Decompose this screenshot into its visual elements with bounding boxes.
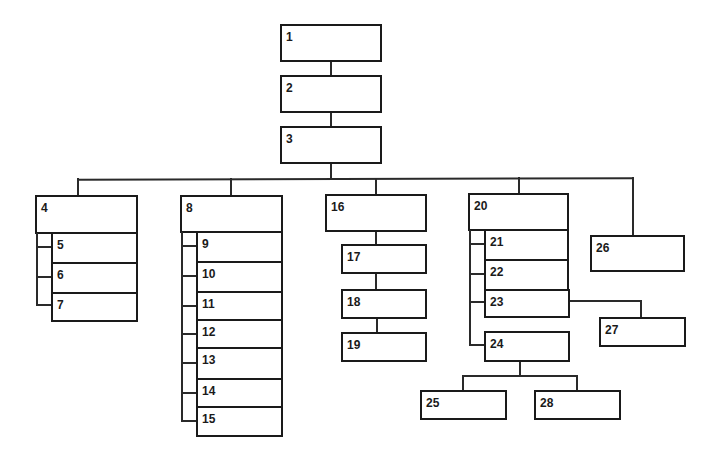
node-label: 10 xyxy=(202,267,215,281)
node-18: 18 xyxy=(341,289,427,319)
node-5: 5 xyxy=(51,232,138,264)
connector xyxy=(462,375,577,377)
connector xyxy=(375,178,377,194)
bracket-tick xyxy=(181,420,196,422)
node-23: 23 xyxy=(484,289,570,318)
node-label: 7 xyxy=(57,298,64,312)
connector xyxy=(576,375,578,390)
node-label: 24 xyxy=(490,337,503,351)
node-2: 2 xyxy=(280,75,382,113)
node-label: 15 xyxy=(202,412,215,426)
node-25: 25 xyxy=(420,390,507,420)
connector xyxy=(330,62,332,75)
node-label: 1 xyxy=(286,30,293,44)
node-label: 2 xyxy=(286,81,293,95)
connector xyxy=(77,178,79,195)
node-11: 11 xyxy=(196,291,283,321)
node-label: 3 xyxy=(286,132,293,146)
node-label: 27 xyxy=(605,323,618,337)
bracket-tick xyxy=(469,273,484,275)
node-label: 12 xyxy=(202,325,215,339)
connector xyxy=(462,375,464,390)
node-20: 20 xyxy=(468,193,569,231)
connector xyxy=(330,164,332,179)
node-17: 17 xyxy=(341,244,427,274)
node-label: 28 xyxy=(540,396,553,410)
bracket-tick xyxy=(36,304,51,306)
connector xyxy=(519,362,521,376)
node-22: 22 xyxy=(484,259,569,291)
node-6: 6 xyxy=(51,262,138,294)
node-12: 12 xyxy=(196,319,283,349)
node-label: 8 xyxy=(186,201,193,215)
bracket-tick xyxy=(181,305,196,307)
node-label: 26 xyxy=(596,241,609,255)
node-26: 26 xyxy=(590,235,685,272)
bracket-tick xyxy=(469,344,484,346)
connector-bus xyxy=(77,177,633,180)
node-label: 9 xyxy=(202,237,209,251)
node-label: 4 xyxy=(41,201,48,215)
bracket-tick xyxy=(181,245,196,247)
node-3: 3 xyxy=(280,126,382,164)
node-10: 10 xyxy=(196,261,283,293)
node-7: 7 xyxy=(51,292,138,322)
node-28: 28 xyxy=(534,390,621,420)
connector xyxy=(640,300,642,317)
bracket-tick xyxy=(181,275,196,277)
node-label: 14 xyxy=(202,384,215,398)
node-4: 4 xyxy=(35,195,138,234)
bracket-tick xyxy=(469,243,484,245)
node-16: 16 xyxy=(325,194,427,232)
node-label: 20 xyxy=(474,199,487,213)
connector xyxy=(570,300,641,302)
connector xyxy=(376,319,378,332)
node-label: 22 xyxy=(490,265,503,279)
node-label: 11 xyxy=(202,297,215,311)
bracket-tick xyxy=(181,362,196,364)
node-8: 8 xyxy=(180,195,283,233)
node-label: 16 xyxy=(331,200,344,214)
node-label: 17 xyxy=(347,250,360,264)
node-9: 9 xyxy=(196,231,283,263)
node-1: 1 xyxy=(280,24,382,62)
bracket-tick xyxy=(36,246,51,248)
node-14: 14 xyxy=(196,378,283,408)
connector xyxy=(518,177,520,193)
node-label: 18 xyxy=(347,295,360,309)
node-label: 23 xyxy=(490,295,503,309)
node-label: 21 xyxy=(490,235,503,249)
node-27: 27 xyxy=(599,317,686,347)
bracket-tick xyxy=(469,301,484,303)
node-19: 19 xyxy=(341,332,427,362)
bracket-tick xyxy=(181,392,196,394)
bracket-tick xyxy=(36,276,51,278)
node-label: 6 xyxy=(57,268,64,282)
connector xyxy=(230,178,232,195)
node-label: 13 xyxy=(202,353,215,367)
node-15: 15 xyxy=(196,406,283,437)
node-24: 24 xyxy=(484,331,570,362)
bracket-tick xyxy=(181,333,196,335)
node-21: 21 xyxy=(484,229,569,261)
bracket xyxy=(36,233,38,305)
connector xyxy=(375,232,377,244)
node-label: 19 xyxy=(347,338,360,352)
connector xyxy=(375,274,377,289)
node-13: 13 xyxy=(196,347,283,380)
node-label: 5 xyxy=(57,238,64,252)
bracket xyxy=(469,230,471,345)
node-label: 25 xyxy=(426,396,439,410)
connector xyxy=(632,177,634,235)
connector xyxy=(330,113,332,126)
